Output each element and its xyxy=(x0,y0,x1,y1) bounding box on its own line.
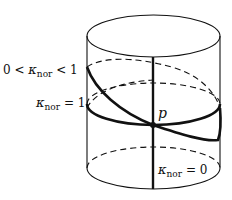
label-point-p: p xyxy=(158,106,167,120)
label-suffix: < 1 xyxy=(52,63,77,77)
label-suffix: = 0 xyxy=(182,163,207,177)
label-horizontal-curvature: κnor = 1 xyxy=(36,96,85,109)
cylinder-top-rim xyxy=(87,15,220,57)
label-suffix: = 1 xyxy=(60,96,85,110)
label-prefix: 0 < xyxy=(3,63,28,77)
subscript-nor: nor xyxy=(37,69,53,79)
subscript-nor: nor xyxy=(167,169,183,179)
kappa-symbol: κ xyxy=(28,62,37,77)
subscript-nor: nor xyxy=(45,102,61,112)
label-tilted-curvature: 0 < κnor < 1 xyxy=(3,63,78,76)
kappa-symbol: κ xyxy=(36,95,45,110)
point-p-dot xyxy=(150,122,156,128)
kappa-symbol: κ xyxy=(158,162,167,177)
label-vertical-curvature: κnor = 0 xyxy=(158,163,207,176)
